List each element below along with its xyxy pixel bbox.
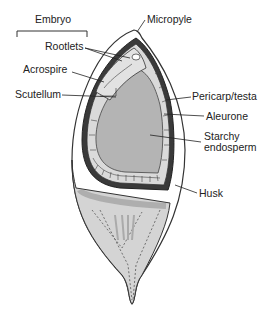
label-aleurone: Aleurone — [206, 111, 248, 122]
label-acrospire: Acrospire — [23, 64, 67, 75]
rootlet-tip — [132, 54, 140, 60]
label-scutellum: Scutellum — [15, 89, 61, 100]
label-starchy-endosperm: Starchy endosperm — [204, 131, 257, 153]
label-embryo: Embryo — [35, 14, 71, 25]
label-rootlets: Rootlets — [45, 41, 84, 52]
leader-micropyle — [137, 20, 145, 32]
label-husk: Husk — [199, 188, 223, 199]
grain-diagram — [0, 0, 271, 313]
label-pericarp-testa: Pericarp/testa — [192, 91, 257, 102]
embryo-bracket — [17, 31, 87, 37]
label-micropyle: Micropyle — [147, 14, 192, 25]
